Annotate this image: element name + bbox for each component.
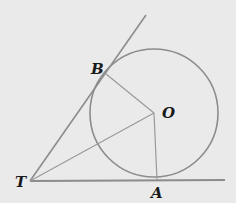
geometry-figure: B O T A	[0, 0, 236, 203]
label-o: O	[162, 104, 175, 122]
label-a: A	[149, 184, 163, 202]
radius-ob	[106, 74, 154, 113]
label-t: T	[15, 173, 28, 191]
tangent-line-tb	[30, 15, 146, 181]
radius-oa	[154, 113, 157, 180]
diagram-canvas: B O T A	[0, 0, 236, 203]
segment-to	[30, 113, 154, 181]
tangent-line-ta	[30, 180, 225, 181]
label-b: B	[90, 60, 104, 78]
